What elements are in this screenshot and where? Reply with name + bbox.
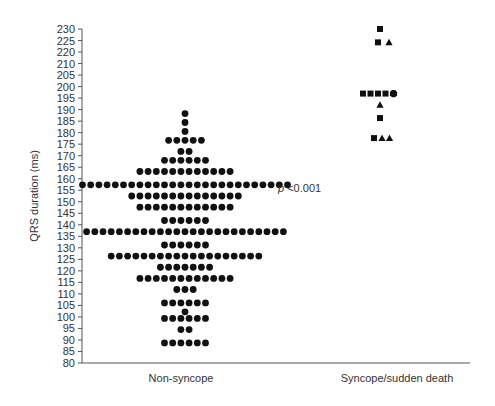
- data-point-circle: [161, 340, 168, 347]
- data-point-circle: [169, 193, 176, 200]
- data-point-circle: [239, 228, 246, 235]
- data-point-circle: [194, 242, 201, 249]
- data-point-circle: [145, 193, 152, 200]
- data-point-circle: [132, 253, 139, 260]
- data-point-circle: [194, 168, 201, 175]
- y-tick-label: 220: [57, 46, 75, 58]
- data-point-circle: [243, 181, 250, 188]
- data-point-circle: [210, 275, 217, 282]
- data-point-circle: [173, 228, 180, 235]
- data-point-circle: [182, 110, 189, 117]
- data-point-circle: [161, 242, 168, 249]
- y-axis: 2302252202102052001951901851801751701651…: [57, 23, 82, 369]
- data-point-circle: [165, 228, 172, 235]
- data-point-circle: [255, 253, 262, 260]
- data-point-circle: [161, 315, 168, 322]
- data-point-circle: [186, 340, 193, 347]
- data-point-circle: [178, 168, 185, 175]
- data-point-circle: [157, 264, 164, 271]
- data-point-circle: [268, 181, 275, 188]
- data-point-circle: [128, 181, 135, 188]
- data-point-circle: [161, 204, 168, 211]
- y-tick-label: 85: [63, 345, 75, 357]
- data-point-circle: [145, 275, 152, 282]
- data-point-circle: [104, 181, 111, 188]
- data-point-circle: [247, 228, 254, 235]
- y-tick-label: 160: [57, 173, 75, 185]
- data-point-circle: [169, 275, 176, 282]
- data-point-circle: [210, 193, 217, 200]
- data-point-circle: [137, 168, 144, 175]
- y-tick-label: 115: [57, 276, 75, 288]
- data-point-circle: [178, 326, 185, 333]
- data-point-circle: [227, 168, 234, 175]
- data-point-circle: [145, 181, 152, 188]
- data-point-circle: [79, 181, 86, 188]
- data-point-circle: [182, 119, 189, 126]
- data-point-circle: [264, 228, 271, 235]
- data-point-circle: [194, 315, 201, 322]
- data-point-circle: [202, 242, 209, 249]
- data-point-circle: [202, 217, 209, 224]
- data-point-circle: [280, 228, 287, 235]
- data-point-circle: [153, 193, 160, 200]
- y-axis-title: QRS duration (ms): [28, 150, 40, 242]
- data-point-circle: [178, 193, 185, 200]
- data-point-circle: [87, 181, 94, 188]
- data-point-circle: [178, 157, 185, 164]
- data-point-circle: [223, 228, 230, 235]
- data-point-circle: [190, 264, 197, 271]
- data-point-circle: [182, 264, 189, 271]
- data-point-circle: [186, 326, 193, 333]
- data-point-circle: [194, 204, 201, 211]
- data-point-circle: [182, 253, 189, 260]
- data-points: [79, 26, 397, 346]
- data-point-circle: [145, 168, 152, 175]
- y-tick-label: 225: [57, 35, 75, 47]
- data-point-circle: [116, 228, 123, 235]
- y-tick-label: 155: [57, 184, 75, 196]
- data-point-circle: [169, 168, 176, 175]
- data-point-circle: [169, 181, 176, 188]
- data-point-octagon: [390, 90, 397, 97]
- y-tick-label: 230: [57, 23, 75, 35]
- data-point-circle: [186, 157, 193, 164]
- data-point-square: [377, 115, 383, 121]
- y-tick-label: 110: [57, 288, 75, 300]
- data-point-circle: [186, 242, 193, 249]
- data-point-circle: [178, 275, 185, 282]
- data-point-circle: [161, 299, 168, 306]
- data-point-circle: [120, 181, 127, 188]
- y-tick-label: 145: [57, 207, 75, 219]
- data-point-circle: [219, 204, 226, 211]
- data-point-circle: [251, 181, 258, 188]
- data-point-circle: [182, 286, 189, 293]
- data-point-circle: [194, 217, 201, 224]
- data-point-circle: [219, 193, 226, 200]
- y-tick-label: 120: [57, 265, 75, 277]
- data-point-circle: [182, 308, 189, 315]
- data-point-circle: [108, 228, 115, 235]
- y-tick-label: 90: [63, 334, 75, 346]
- data-point-circle: [202, 157, 209, 164]
- data-point-circle: [231, 228, 238, 235]
- dot-plot-chart: 2302252202102052001951901851801751701651…: [0, 0, 495, 406]
- data-point-circle: [210, 181, 217, 188]
- y-tick-label: 150: [57, 196, 75, 208]
- data-point-circle: [141, 228, 148, 235]
- data-point-circle: [219, 181, 226, 188]
- data-point-circle: [165, 264, 172, 271]
- data-point-circle: [124, 228, 131, 235]
- data-point-circle: [202, 168, 209, 175]
- data-point-circle: [169, 204, 176, 211]
- data-point-circle: [161, 181, 168, 188]
- data-point-triangle: [378, 135, 385, 142]
- data-point-circle: [169, 315, 176, 322]
- data-point-circle: [124, 253, 131, 260]
- data-point-circle: [186, 148, 193, 155]
- data-point-circle: [157, 228, 164, 235]
- data-point-circle: [153, 168, 160, 175]
- data-point-circle: [178, 204, 185, 211]
- data-point-circle: [206, 228, 213, 235]
- data-point-circle: [96, 181, 103, 188]
